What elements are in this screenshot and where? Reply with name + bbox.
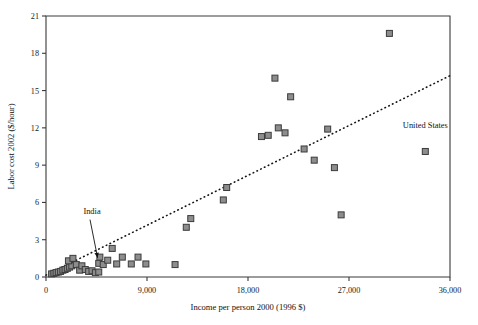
data-point-marker [119, 254, 125, 260]
trend-line-path [46, 76, 450, 275]
data-point-marker [128, 261, 134, 267]
y-tick-label: 0 [35, 273, 39, 282]
data-point-marker [143, 261, 149, 267]
data-point-marker [135, 254, 141, 260]
data-point-marker [265, 132, 271, 138]
x-axis-title: Income per person 2000 (1996 $) [191, 302, 306, 312]
data-point-marker [325, 126, 331, 132]
data-point-marker [109, 245, 115, 251]
data-point-marker [258, 134, 264, 140]
data-point-marker [96, 269, 102, 275]
scatter-chart: 036912151821 09,00018,00027,00036,000 In… [0, 0, 478, 325]
data-point-marker [70, 255, 76, 261]
x-tick-label: 36,000 [439, 286, 462, 295]
data-point-marker [288, 94, 294, 100]
x-tick-label: 27,000 [338, 286, 361, 295]
data-point-marker [422, 148, 428, 154]
data-point-marker [338, 212, 344, 218]
y-axis-title: Labor cost 2002 ($/hour) [6, 103, 16, 189]
data-point-marker [301, 146, 307, 152]
plot-border [46, 16, 450, 277]
data-point-marker [282, 130, 288, 136]
annotation-label: United States [403, 121, 448, 130]
annotation-label: India [83, 207, 100, 216]
data-point-marker [224, 185, 230, 191]
x-axis-ticks: 09,00018,00027,00036,000 [44, 277, 461, 295]
y-tick-label: 9 [35, 161, 39, 170]
y-tick-label: 6 [35, 198, 39, 207]
data-point-marker [188, 216, 194, 222]
data-point-marker [114, 261, 120, 267]
x-tick-label: 18,000 [237, 286, 260, 295]
data-point-marker [275, 125, 281, 131]
data-point-marker [311, 157, 317, 163]
x-tick-label: 9,000 [138, 286, 156, 295]
data-point-marker [386, 30, 392, 36]
data-point-marker [272, 75, 278, 81]
y-axis-ticks: 036912151821 [31, 12, 46, 282]
trend-line [46, 76, 450, 275]
x-tick-label: 0 [44, 286, 48, 295]
data-points [49, 30, 429, 276]
data-point-marker [220, 197, 226, 203]
plot-frame [46, 16, 450, 277]
data-point-marker [183, 224, 189, 230]
chart-canvas: 036912151821 09,00018,00027,00036,000 In… [0, 0, 478, 325]
y-tick-label: 3 [35, 236, 39, 245]
y-tick-label: 12 [31, 124, 39, 133]
y-tick-label: 21 [31, 12, 39, 21]
annotations: IndiaUnited States [83, 121, 447, 258]
y-tick-label: 15 [31, 87, 39, 96]
data-point-marker [172, 262, 178, 268]
data-point-marker [105, 257, 111, 263]
y-tick-label: 18 [31, 49, 39, 58]
data-point-marker [331, 165, 337, 171]
